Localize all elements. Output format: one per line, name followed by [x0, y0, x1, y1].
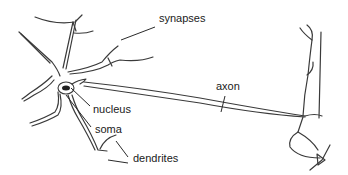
label-dendrites: dendrites	[133, 153, 178, 164]
neuron-diagram: synapses axon nucleus soma dendrites	[0, 0, 348, 175]
label-axon: axon	[216, 81, 240, 92]
neuron-drawing	[0, 0, 348, 175]
label-soma: soma	[95, 124, 122, 135]
label-synapses: synapses	[159, 13, 205, 24]
label-nucleus: nucleus	[93, 104, 131, 115]
